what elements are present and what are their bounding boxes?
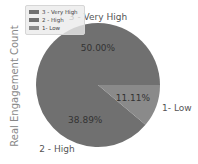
legend-label: 2 - High	[42, 17, 64, 23]
legend-patch-icon	[29, 26, 39, 30]
legend: 3 - Very High 2 - High 1- Low	[25, 5, 85, 35]
y-axis-label: Real Engagement Count	[9, 25, 20, 146]
slice-percent-label: 38.89%	[68, 115, 103, 125]
slice-percent-label: 11.11%	[116, 93, 151, 103]
legend-label: 3 - Very High	[42, 9, 78, 15]
slice-percent-label: 50.00%	[81, 43, 116, 53]
legend-item: 2 - High	[29, 16, 64, 24]
legend-item: 3 - Very High	[29, 8, 78, 16]
legend-label: 1- Low	[42, 25, 60, 31]
slice-category-label: 1- Low	[162, 103, 192, 113]
chart-root: 50.00%3 - Very High38.89%2 - High11.11%1…	[0, 0, 198, 164]
legend-patch-icon	[29, 10, 39, 14]
legend-item: 1- Low	[29, 24, 60, 32]
slice-category-label: 2 - High	[39, 144, 74, 154]
legend-patch-icon	[29, 18, 39, 22]
